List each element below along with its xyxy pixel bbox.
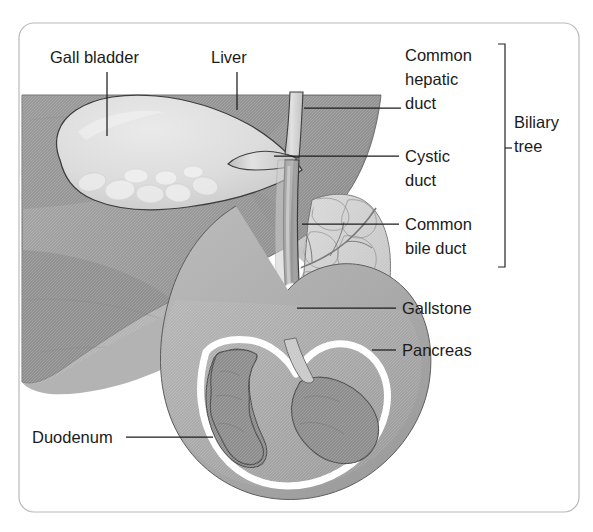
label-common-hepatic-duct-line2: hepatic (405, 70, 458, 88)
label-common-hepatic-duct-line3: duct (405, 94, 437, 112)
label-cystic-duct-line1: Cystic (405, 147, 450, 165)
label-liver: Liver (211, 48, 247, 66)
label-common-bile-duct-line2: bile duct (405, 239, 467, 257)
label-gall-bladder: Gall bladder (50, 48, 139, 66)
label-duodenum: Duodenum (32, 428, 113, 446)
biliary-tree-figure: Gall bladder Liver Common hepatic duct C… (0, 0, 593, 532)
label-biliary-tree-line2: tree (514, 137, 542, 155)
label-cystic-duct-line2: duct (405, 171, 437, 189)
label-gallstone: Gallstone (402, 299, 472, 317)
label-common-hepatic-duct-line1: Common (405, 46, 472, 64)
label-pancreas: Pancreas (402, 341, 472, 359)
label-biliary-tree-line1: Biliary (514, 113, 560, 131)
anatomy-diagram: Gall bladder Liver Common hepatic duct C… (0, 0, 593, 532)
label-common-bile-duct-line1: Common (405, 215, 472, 233)
